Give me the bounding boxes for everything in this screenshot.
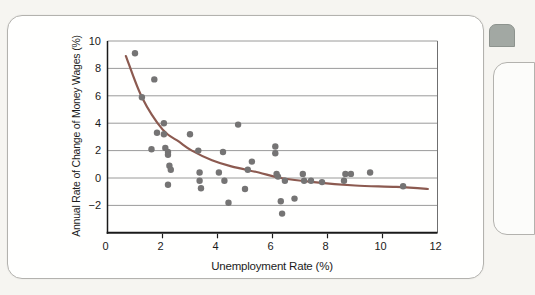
y-tick-label: 0 [95, 172, 101, 184]
data-point [165, 152, 171, 158]
x-axis-title: Unemployment Rate (%) [211, 260, 333, 272]
y-tick-label: 4 [95, 117, 101, 129]
data-point [154, 130, 160, 136]
data-point [300, 171, 306, 177]
data-point [196, 169, 202, 175]
data-point [235, 121, 241, 127]
x-tick-label: 12 [429, 240, 441, 252]
data-point [168, 167, 174, 173]
data-point [195, 147, 201, 153]
data-point [278, 198, 284, 204]
data-point [272, 143, 278, 149]
data-point [308, 178, 314, 184]
data-point [275, 173, 281, 179]
page-edge-tab [489, 24, 515, 47]
x-tick-label: 6 [267, 240, 273, 252]
data-point [165, 182, 171, 188]
data-point [161, 120, 167, 126]
y-tick-label: 2 [95, 144, 101, 156]
data-point [198, 185, 204, 191]
data-point [319, 179, 325, 185]
data-point [242, 186, 248, 192]
data-point [348, 171, 354, 177]
y-tick-label: 6 [95, 90, 101, 102]
data-point [272, 150, 278, 156]
data-point [139, 94, 145, 100]
data-point [249, 158, 255, 164]
data-point [148, 146, 154, 152]
x-tick-label: 10 [374, 240, 386, 252]
data-point [216, 169, 222, 175]
data-point [225, 200, 231, 206]
x-tick-label: 8 [322, 240, 328, 252]
y-tick-label: −2 [88, 199, 101, 211]
y-tick-label: 8 [95, 62, 101, 74]
data-point [341, 178, 347, 184]
y-tick-label: 10 [89, 35, 101, 47]
data-point [196, 178, 202, 184]
data-point [367, 169, 373, 175]
y-axis-title: Annual Rate of Change of Money Wages (%) [70, 35, 82, 237]
data-point [151, 76, 157, 82]
data-point [220, 149, 226, 155]
data-point [161, 131, 167, 137]
data-point [282, 178, 288, 184]
data-point [245, 167, 251, 173]
x-tick-label: 0 [102, 240, 108, 252]
data-point [400, 183, 406, 189]
data-point [132, 50, 138, 56]
x-tick-label: 2 [157, 240, 163, 252]
data-point [342, 171, 348, 177]
data-point [301, 178, 307, 184]
data-point [279, 210, 285, 216]
data-point [291, 195, 297, 201]
data-point [187, 131, 193, 137]
data-point [221, 178, 227, 184]
x-tick-label: 4 [212, 240, 218, 252]
adjacent-card-edge [493, 62, 535, 235]
